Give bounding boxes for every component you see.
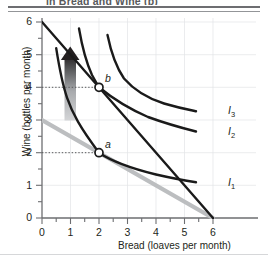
- curve-label-i3: I3: [228, 104, 235, 119]
- point-a-label: a: [105, 138, 111, 150]
- y-tick-label-0: 0: [20, 212, 32, 223]
- y-tick-label-1: 1: [20, 180, 32, 191]
- x-axis-ticks: [42, 218, 213, 224]
- indifference-curve-i2: [79, 29, 196, 132]
- y-axis-ticks: [36, 22, 42, 218]
- curve-label-i2: I2: [228, 125, 235, 140]
- curve-label-i3-sub: 3: [231, 110, 235, 119]
- x-axis-title: Bread (loaves per month): [118, 240, 231, 251]
- x-tick-label-5: 5: [179, 227, 191, 238]
- figure-container: in Bread and Wine (b): [0, 0, 268, 260]
- point-b-label: b: [105, 72, 111, 84]
- x-tick-label-2: 2: [93, 227, 105, 238]
- x-tick-label-3: 3: [122, 227, 134, 238]
- x-tick-label-6: 6: [207, 227, 219, 238]
- curve-label-i2-sub: 2: [231, 131, 235, 140]
- indifference-curve-i1: [56, 48, 196, 182]
- x-tick-label-0: 0: [36, 227, 48, 238]
- x-tick-label-1: 1: [65, 227, 77, 238]
- bottom-rule: [0, 254, 268, 255]
- indifference-curve-i3: [108, 35, 197, 111]
- curve-label-i1-sub: 1: [231, 182, 235, 191]
- y-tick-label-6: 6: [20, 16, 32, 27]
- y-axis-title: Wine (bottles per month): [21, 37, 32, 167]
- point-a-marker: [95, 149, 103, 157]
- x-tick-label-4: 4: [150, 227, 162, 238]
- point-b-marker: [95, 83, 103, 91]
- curve-label-i1: I1: [228, 176, 235, 191]
